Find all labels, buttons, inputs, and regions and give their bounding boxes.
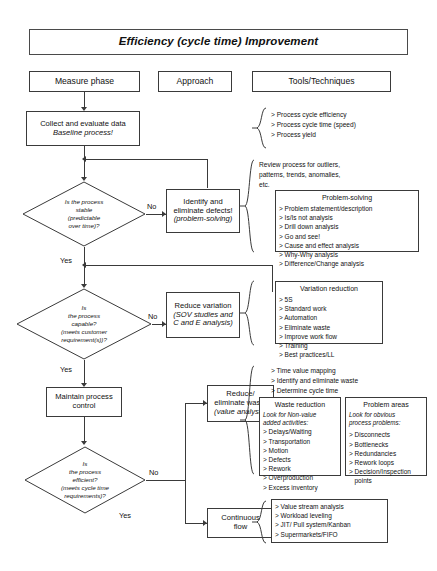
note-line: etc. <box>259 180 434 190</box>
node-identify-eliminate-defects: Identify and eliminate defects! (problem… <box>166 189 240 233</box>
list-item: > Workload leveling <box>275 511 384 520</box>
edge-label-efficient-yes: Yes <box>119 511 131 520</box>
node-reduce-variation: Reduce variation (SOV studies and C and … <box>166 292 240 338</box>
list-item: > Problem statement/description <box>279 204 415 213</box>
node-continuous-flow-l2: flow <box>234 523 248 532</box>
node-identify-l3: (problem-solving) <box>174 215 233 224</box>
brace-problem-solving <box>240 159 256 253</box>
connector-efficient-no-vertical <box>185 403 186 481</box>
edge-label-capable-no: No <box>148 312 157 321</box>
arrowhead-to-efficient-diamond <box>81 441 87 445</box>
list-item: > Difference/Change analysis <box>279 259 415 268</box>
connector-reduce-variation-feedback-horizontal <box>86 265 272 266</box>
note-line: patterns, trends, anomalies, <box>259 170 434 180</box>
list-item: points <box>349 476 423 485</box>
decision-efficient-l1: Is <box>83 460 88 468</box>
decision-is-process-efficient-text: Is the process efficient? (meets cycle t… <box>24 446 146 514</box>
panel-continuous-flow-tools: > Value stream analysis > Workload level… <box>271 499 388 543</box>
node-collect-and-evaluate-data: Collect and evaluate data Baseline proce… <box>26 111 140 146</box>
decision-stable-l4: over time)? <box>69 222 100 230</box>
list-item: > Transportation <box>263 437 337 446</box>
decision-stable-l2: stable <box>76 206 93 214</box>
list-item: > Identify and eliminate waste <box>271 376 436 386</box>
list-item: > Improve work flow <box>279 332 379 341</box>
panel-problem-areas-subtitle-2: process problems: <box>349 419 423 427</box>
list-item: > Bottlenecks <box>349 440 423 449</box>
note-review-process: Review process for outliers, patterns, t… <box>259 160 434 190</box>
decision-capable-l2: the process <box>68 312 100 320</box>
connector-collect-to-stable <box>84 146 85 179</box>
panel-problem-areas: Problem areas Look for obvious process p… <box>345 397 427 476</box>
decision-is-process-capable-text: Is the process capable? (meets customer … <box>16 288 152 360</box>
column-header-approach: Approach <box>158 71 232 92</box>
decision-stable-l1: Is the process <box>65 198 104 206</box>
node-reduce-variation-l3: C and E analysis) <box>173 319 233 328</box>
decision-efficient-l2: the process <box>69 468 101 476</box>
decision-capable-l5: requirement(s))? <box>61 336 107 344</box>
list-item: > Defects <box>263 455 337 464</box>
list-item: > Training <box>279 341 379 350</box>
list-item: > Supermarkets/FIFO <box>275 530 384 539</box>
list-item: > Process yield <box>271 130 431 140</box>
edge-label-stable-yes: Yes <box>60 256 72 265</box>
panel-waste-reduction-subtitle-1: Look for Non-value <box>263 411 337 419</box>
panel-waste-reduction-title: Waste reduction <box>263 400 337 410</box>
chart-title-box: Efficiency (cycle time) Improvement <box>29 29 408 55</box>
list-item: > Time value mapping <box>271 366 436 376</box>
brace-baseline-metrics <box>252 107 268 149</box>
list-item: > Rework loops <box>349 458 423 467</box>
list-item: > Disconnects <box>349 430 423 439</box>
column-header-tools-techniques: Tools/Techniques <box>252 71 391 92</box>
list-item: > Is/Is not analysis <box>279 213 415 222</box>
chart-title: Efficiency (cycle time) Improvement <box>119 35 319 49</box>
panel-problem-areas-subtitle-1: Look for obvious <box>349 411 423 419</box>
list-item: > Decision/Inspection <box>349 467 423 476</box>
list-item: > Overproduction <box>263 473 337 482</box>
list-baseline-metrics: > Process cycle efficiency > Process cyc… <box>271 110 431 141</box>
edge-label-efficient-no: No <box>149 468 158 477</box>
list-item: > Eliminate waste <box>279 323 379 332</box>
connector-identify-feedback-vertical <box>207 159 208 188</box>
node-maintain-process-control: Maintain process control <box>46 387 122 417</box>
brace-variation-reduction <box>240 280 256 346</box>
list-item: > Rework <box>263 464 337 473</box>
list-item: > Value stream analysis <box>275 502 384 511</box>
decision-capable-l1: Is <box>82 304 87 312</box>
connector-identify-feedback-horizontal <box>86 159 207 160</box>
list-item: > Why-Why analysis <box>279 250 415 259</box>
list-cycle-time-tools: > Time value mapping > Identify and elim… <box>271 366 436 397</box>
column-header-measure-phase: Measure phase <box>29 71 140 92</box>
list-item: > Automation <box>279 313 379 322</box>
edge-label-stable-no: No <box>147 202 156 211</box>
column-header-tools-label: Tools/Techniques <box>289 76 355 86</box>
decision-is-process-stable: Is the process stable (predictable over … <box>22 181 146 247</box>
list-item: > Process cycle efficiency <box>271 110 431 120</box>
list-item: > Drill down analysis <box>279 222 415 231</box>
list-item: > Cause and effect analysis <box>279 241 415 250</box>
decision-efficient-l3: efficient? <box>73 476 98 484</box>
flowchart-canvas: Efficiency (cycle time) Improvement Meas… <box>0 0 437 571</box>
column-header-approach-label: Approach <box>177 76 214 86</box>
list-item: > Process cycle time (speed) <box>271 120 431 130</box>
connector-maintain-to-efficient <box>84 417 85 443</box>
list-item: > Redundancies <box>349 449 423 458</box>
arrowhead-reduce-variation-feedback <box>82 262 86 268</box>
decision-capable-l4: (meets customer <box>61 328 107 336</box>
list-item: > Standard work <box>279 304 379 313</box>
list-item: > JIT/ Pull system/Kanban <box>275 520 384 529</box>
edge-label-capable-yes: Yes <box>60 365 72 374</box>
decision-capable-l3: capable? <box>71 320 96 328</box>
decision-is-process-efficient: Is the process efficient? (meets cycle t… <box>24 446 146 514</box>
column-header-measure-phase-label: Measure phase <box>55 76 114 86</box>
list-item: > Delays/Waiting <box>263 427 337 436</box>
connector-capable-yes <box>84 360 85 385</box>
list-item: > Determine cycle time <box>271 386 436 396</box>
decision-efficient-l5: requirements)? <box>64 492 106 500</box>
list-item: > Best practices/LL <box>279 350 379 359</box>
panel-waste-reduction: Waste reduction Look for Non-value added… <box>259 397 341 476</box>
brace-continuous-flow-tools <box>252 500 268 544</box>
panel-problem-solving: Problem-solving > Problem statement/desc… <box>275 190 419 252</box>
connector-efficient-yes-vertical <box>185 481 186 523</box>
decision-stable-l3: (predictable <box>68 214 100 222</box>
connector-efficient-no-horizontal <box>146 480 185 481</box>
